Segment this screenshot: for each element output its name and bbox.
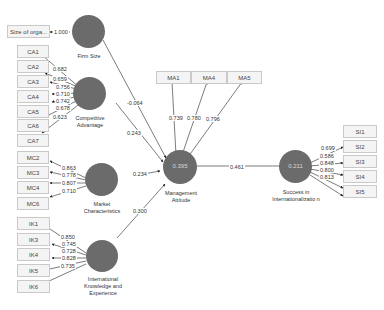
indicator-mc2[interactable]: MC2 [17,151,49,164]
loading-mc3: 0.778 [61,172,77,178]
construct-label-management-attitude: Management Attitude [158,190,204,204]
r2-success: 0.211 [279,163,312,169]
path-competitive-advantage: 0.243 [126,130,142,136]
path-firm-size: -0.064 [126,100,144,106]
indicator-ca1[interactable]: CA1 [17,45,49,58]
construct-label-success: Success in Internationalizatio n [264,189,328,203]
indicator-si3[interactable]: SI3 [343,155,377,168]
loading-ik5: 0.828 [61,255,77,261]
construct-market-characteristics[interactable] [85,163,118,196]
indicator-ca4[interactable]: CA4 [17,90,49,103]
indicator-ik6[interactable]: IK6 [17,280,50,293]
indicator-ik3[interactable]: IK3 [17,233,50,246]
loading-ca4: 0.710 [55,91,71,97]
path-international-knowledge: 0.300 [132,208,148,214]
construct-label-international-knowledge: International Knowledge and Experience [78,276,128,297]
loading-ma1: 0.739 [168,115,184,121]
indicator-ca6[interactable]: CA6 [17,119,49,132]
loading-ik4: 0.728 [61,248,77,254]
loading-si3: 0.848 [319,160,335,166]
loading-ma4: 0.780 [186,115,202,121]
indicator-ca5[interactable]: CA5 [17,105,49,118]
indicator-ma5[interactable]: MA5 [227,71,262,84]
loading-si5: 0.813 [319,174,335,180]
loading-ik1: 0.850 [60,234,76,240]
loading-ca1: 0.682 [52,66,68,72]
loading-ma5: 0.796 [205,116,221,122]
loading-mc4: 0.807 [61,180,77,186]
indicator-ma4[interactable]: MA4 [191,71,227,84]
path-ma-to-success: 0.461 [229,164,245,170]
indicator-size-of-organization[interactable]: Size of orga... [7,25,50,38]
loading-si1: 0.699 [320,145,336,151]
loading-si4: 0.800 [319,167,335,173]
loading-ca2: 0.659 [52,76,68,82]
construct-international-knowledge[interactable] [86,240,118,272]
loading-ca6: 0.678 [55,105,71,111]
indicator-ik1[interactable]: IK1 [17,217,50,230]
loading-ca3: 0.756 [55,84,71,90]
construct-competitive-advantage[interactable] [73,77,106,110]
construct-firm-size[interactable] [72,15,105,48]
indicator-si5[interactable]: SI5 [343,185,377,198]
indicator-mc6[interactable]: MC6 [17,197,49,210]
loading-si2: 0.586 [319,153,335,159]
construct-label-competitive-advantage: Competitive Advantage [66,115,114,129]
indicator-ik4[interactable]: IK4 [17,248,50,261]
loading-ik6: 0.735 [60,263,76,269]
indicator-ik5[interactable]: IK5 [17,264,50,277]
indicator-ma1[interactable]: MA1 [156,71,191,84]
indicator-si4[interactable]: SI4 [343,170,377,183]
loading-ca5: 0.742 [55,98,71,104]
loading-size: 1.000 [53,29,69,35]
r2-management-attitude: 0.395 [163,163,197,169]
indicator-ca2[interactable]: CA2 [17,60,49,73]
construct-label-market-characteristics: Market Characteristics [76,201,128,215]
loading-mc6: 0.710 [61,188,77,194]
indicator-mc4[interactable]: MC4 [17,181,49,194]
pls-path-model: Size of orga... 1.000 Firm Size CA1 CA2 … [0,0,384,310]
loading-mc2: 0.863 [61,165,77,171]
indicator-si2[interactable]: SI2 [343,140,377,153]
loading-ik3: 0.745 [61,241,77,247]
indicator-mc3[interactable]: MC3 [17,166,49,179]
indicator-si1[interactable]: SI1 [343,125,377,138]
construct-label-firm-size: Firm Size [68,53,110,60]
path-market-characteristics: 0.234 [132,171,148,177]
indicator-ca3[interactable]: CA3 [17,75,49,88]
indicator-ca7[interactable]: CA7 [17,134,49,147]
